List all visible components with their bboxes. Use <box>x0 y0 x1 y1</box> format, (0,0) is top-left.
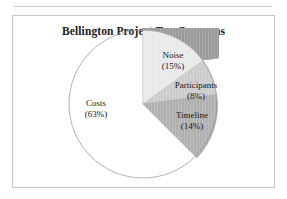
pie-label-timeline-name: Timeline <box>161 110 223 121</box>
pie-label-timeline: Timeline (14%) <box>161 110 223 132</box>
pie-label-costs-name: Costs <box>69 98 123 109</box>
pie-chart: Noise (15%) Participants (8%) Timeline (… <box>13 16 274 187</box>
page-top-rule <box>14 6 272 7</box>
pie-label-timeline-percent: (14%) <box>161 121 223 132</box>
pie-label-participants: Participants (8%) <box>159 80 233 102</box>
pie-label-costs-percent: (63%) <box>69 109 123 120</box>
pie-label-noise-name: Noise <box>146 50 200 61</box>
pie-label-noise-percent: (15%) <box>146 61 200 72</box>
pie-label-participants-percent: (8%) <box>159 91 233 102</box>
pie-label-participants-name: Participants <box>159 80 233 91</box>
chart-page: Bellington Project Top Concerns <box>0 0 287 199</box>
pie-label-noise: Noise (15%) <box>146 50 200 72</box>
pie-label-costs: Costs (63%) <box>69 98 123 120</box>
chart-frame: Bellington Project Top Concerns <box>12 15 275 188</box>
